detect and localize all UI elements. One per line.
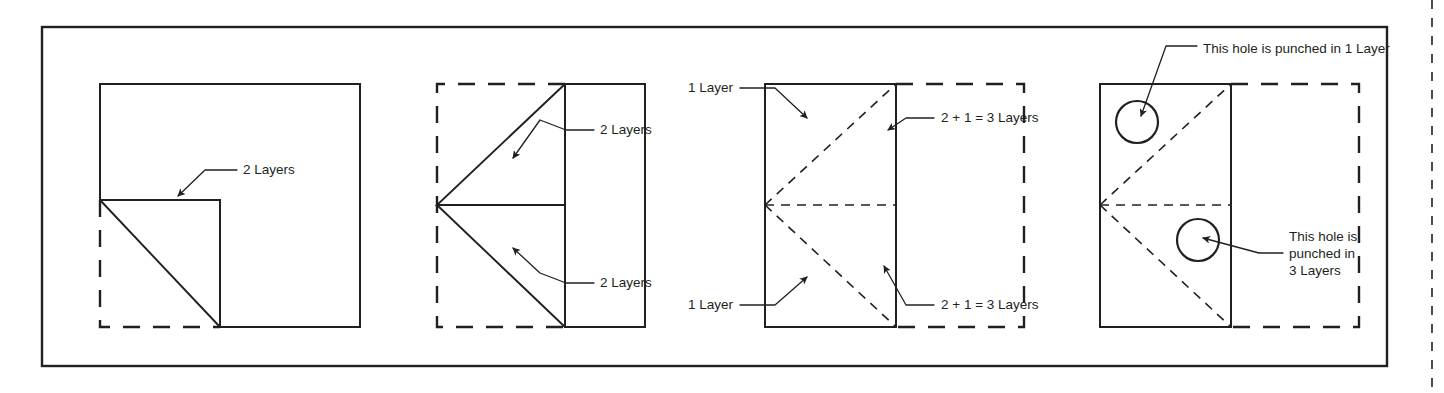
- panel-2-sheet-outline: [565, 84, 645, 327]
- hole-1-layer-icon: [1116, 101, 1158, 143]
- panel-3-lower-diagonal-crease: [765, 205, 896, 327]
- panel-1-diagonal-fold: [100, 200, 220, 327]
- panel-3-top-left-leader-line: [740, 88, 807, 118]
- panel-1-first-fold: 2 Layers: [100, 84, 360, 327]
- panel-2-lower-triangle: [437, 205, 565, 327]
- panel-3-bottom-right-leader-line: [884, 266, 934, 305]
- panel-4-label-line-1: This hole is: [1289, 229, 1358, 244]
- panel-3-label-top-3-layers: 2 + 1 = 3 Layers: [941, 110, 1039, 125]
- panel-4-label-line-3: 3 Layers: [1289, 263, 1341, 278]
- panel-4-upper-diagonal-crease: [1100, 84, 1231, 205]
- panel-3-label-top-1-layer: 1 Layer: [688, 80, 734, 95]
- panel-3-label-bottom-3-layers: 2 + 1 = 3 Layers: [941, 297, 1039, 312]
- panel-2-upper-triangle: [437, 84, 565, 205]
- panel-2-label-lower-2-layers: 2 Layers: [600, 275, 652, 290]
- panel-1-leader-line: [178, 170, 237, 196]
- panel-4-label-hole-1-layer: This hole is punched in 1 Layer: [1203, 41, 1390, 56]
- panel-3-layer-counts: 1 Layer 1 Layer 2 + 1 = 3 Layers 2 + 1 =…: [688, 80, 1039, 327]
- panel-2-lower-leader-line: [513, 248, 594, 283]
- panel-3-bottom-left-leader-line: [740, 277, 807, 305]
- panel-4-ghost-outline: [1231, 84, 1359, 327]
- panel-2-upper-leader-line: [513, 120, 594, 158]
- paper-folding-diagram: 2 Layers 2 Layers 2 Layers: [0, 0, 1444, 393]
- panel-1-label-2-layers: 2 Layers: [243, 162, 295, 177]
- panel-4-label-line-2: punched in: [1289, 246, 1355, 261]
- panel-4-label-hole-3-layers: This hole is punched in 3 Layers: [1289, 229, 1361, 278]
- panel-3-upper-diagonal-crease: [765, 84, 896, 205]
- panel-3-top-right-leader-line: [888, 118, 934, 130]
- figure-border: [42, 27, 1387, 366]
- panel-2-second-fold: 2 Layers 2 Layers: [437, 84, 652, 327]
- panel-2-label-upper-2-layers: 2 Layers: [600, 122, 652, 137]
- panel-4-punched-holes: This hole is punched in 1 Layer This hol…: [1100, 41, 1390, 327]
- panel-1-sheet-outline: [100, 84, 360, 327]
- panel-3-label-bottom-1-layer: 1 Layer: [688, 297, 734, 312]
- figure-root: 2 Layers 2 Layers 2 Layers: [0, 0, 1444, 393]
